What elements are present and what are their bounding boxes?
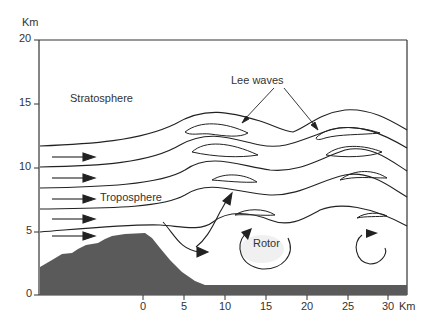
mountain-terrain bbox=[40, 233, 407, 295]
axis-unit-y: Km bbox=[22, 16, 39, 28]
stratosphere-label: Stratosphere bbox=[70, 92, 133, 104]
y-axis-ticks bbox=[34, 40, 39, 295]
troposphere-label: Troposphere bbox=[100, 191, 162, 203]
rotor-label: Rotor bbox=[253, 237, 280, 249]
y-tick-20: 20 bbox=[19, 32, 31, 44]
lenticular-clouds bbox=[185, 124, 387, 218]
x-tick-20: 20 bbox=[301, 300, 313, 312]
x-tick-15: 15 bbox=[260, 300, 272, 312]
y-tick-5: 5 bbox=[26, 224, 32, 236]
lee-flow-arrows bbox=[163, 193, 232, 257]
secondary-rotor bbox=[356, 229, 385, 264]
lee-waves-pointers bbox=[242, 88, 318, 130]
y-tick-0: 0 bbox=[26, 287, 32, 299]
lee-waves-label: Lee waves bbox=[231, 74, 284, 86]
x-tick-0: 0 bbox=[140, 300, 146, 312]
y-tick-10: 10 bbox=[19, 160, 31, 172]
x-tick-25: 25 bbox=[342, 300, 354, 312]
y-tick-15: 15 bbox=[19, 96, 31, 108]
x-tick-5: 5 bbox=[181, 300, 187, 312]
axis-unit-x: Km bbox=[399, 300, 416, 312]
x-tick-30: 30 bbox=[382, 300, 394, 312]
lee-wave-diagram bbox=[0, 0, 435, 330]
x-tick-10: 10 bbox=[219, 300, 231, 312]
